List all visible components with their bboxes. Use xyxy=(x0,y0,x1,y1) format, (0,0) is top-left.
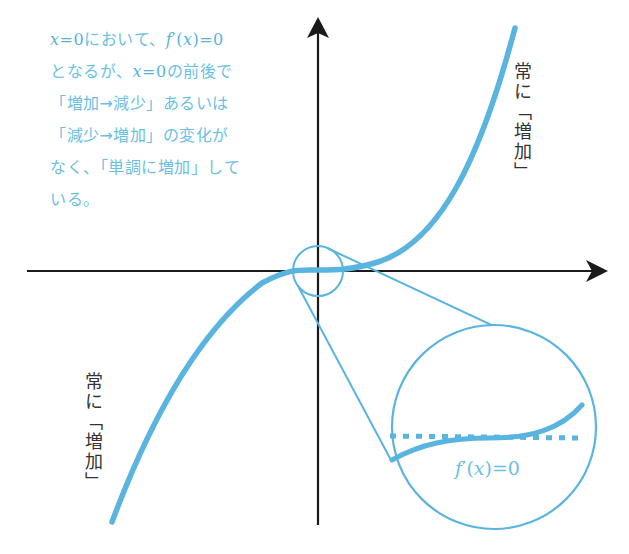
text-segment: となるが、 xyxy=(50,62,133,81)
magnifier-connector-lower xyxy=(298,286,392,462)
text-segment: において、 xyxy=(84,30,166,49)
explanation-line-3: 「増加→減少」あるいは xyxy=(50,88,290,120)
magnified-view xyxy=(390,325,596,529)
text-segment: の前後で xyxy=(167,62,233,81)
var-x: x xyxy=(133,62,143,81)
var-x: x xyxy=(474,457,485,479)
label-always-increasing-upper: 常に「増加」 xyxy=(512,62,530,182)
explanation-line-1: x=0において、f′(x)=0 xyxy=(50,24,290,56)
equals-zero: =0 xyxy=(60,30,85,49)
open-paren: ( xyxy=(466,457,473,479)
explanation-line-5: なく、「単調に増加」して xyxy=(50,152,290,184)
close-equals-zero: )=0 xyxy=(192,30,223,49)
explanation-text: x=0において、f′(x)=0 となるが、x=0の前後で 「増加→減少」あるいは… xyxy=(50,24,290,216)
explanation-line-4: 「減少→増加」の変化が xyxy=(50,120,290,152)
equals-zero: =0 xyxy=(142,62,167,81)
explanation-line-2: となるが、x=0の前後で xyxy=(50,56,290,88)
explanation-line-6: いる。 xyxy=(50,184,290,216)
open-paren: ( xyxy=(176,30,183,49)
derivative-zero-label: f′(x)=0 xyxy=(455,457,520,479)
func-f: f xyxy=(455,457,462,479)
magnifier-connector-upper xyxy=(327,248,515,336)
var-x: x xyxy=(50,30,60,49)
label-always-increasing-lower: 常に「増加」 xyxy=(83,372,101,492)
close-equals-zero: )=0 xyxy=(485,457,520,479)
